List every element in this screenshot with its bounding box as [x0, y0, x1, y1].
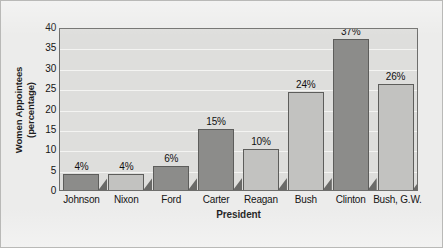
bar-group: 26% — [378, 29, 414, 190]
y-axis-tick-label: 0 — [31, 186, 56, 196]
y-axis-tick-label: 40 — [31, 23, 56, 33]
bar-group: 15% — [198, 29, 234, 190]
plot-area: 4%4%6%15%10%24%37%26% — [59, 28, 418, 191]
y-axis-tick-label: 15 — [31, 125, 56, 135]
x-axis-tick-label: Clinton — [328, 194, 373, 206]
bar[interactable] — [243, 149, 279, 190]
y-axis-tick-label: 35 — [31, 43, 56, 53]
x-axis-tick-labels: JohnsonNixonFordCarterReaganBushClintonB… — [59, 194, 418, 208]
bar[interactable] — [198, 129, 234, 190]
bar-shadow — [323, 178, 332, 190]
bar-series: 4%4%6%15%10%24%37%26% — [60, 29, 417, 190]
chart-figure: Women Appointees (percentage) 0510152025… — [0, 0, 443, 248]
bar-value-label: 26% — [386, 71, 405, 82]
bar[interactable] — [333, 39, 369, 190]
bar-value-label: 6% — [164, 153, 178, 164]
y-axis-title-line1: Women Appointees — [13, 66, 24, 153]
bar-group: 4% — [108, 29, 144, 190]
bar[interactable] — [63, 174, 99, 190]
bar-value-label: 10% — [251, 136, 270, 147]
bar[interactable] — [153, 166, 189, 190]
bar-shadow — [188, 178, 197, 190]
x-axis-tick-label: Reagan — [239, 194, 284, 206]
bar[interactable] — [288, 92, 324, 190]
bar-shadow — [368, 178, 377, 190]
bar-value-label: 24% — [296, 79, 315, 90]
x-axis-tick-label: Nixon — [104, 194, 149, 206]
y-axis-tick-label: 10 — [31, 145, 56, 155]
bar-shadow — [143, 178, 152, 190]
bar-group: 24% — [288, 29, 324, 190]
bar-value-label: 4% — [74, 161, 88, 172]
bar-group: 37% — [333, 29, 369, 190]
y-axis-tick-label: 30 — [31, 64, 56, 74]
x-axis-tick-label: Carter — [194, 194, 239, 206]
y-axis-tick-label: 25 — [31, 84, 56, 94]
bar-group: 4% — [63, 29, 99, 190]
bar-shadow — [233, 178, 242, 190]
bar-value-label: 37% — [341, 28, 360, 37]
bar-shadow — [278, 178, 287, 190]
bar-shadow — [98, 178, 107, 190]
y-axis-tick-labels: 0510152025303540 — [31, 28, 56, 191]
bar[interactable] — [108, 174, 144, 190]
x-axis-tick-label: Johnson — [59, 194, 104, 206]
bar-group: 6% — [153, 29, 189, 190]
bar-group: 10% — [243, 29, 279, 190]
bar-value-label: 4% — [119, 161, 133, 172]
y-axis-tick-label: 20 — [31, 105, 56, 115]
x-axis-title: President — [59, 209, 418, 220]
bar[interactable] — [378, 84, 414, 190]
x-axis-tick-label: Ford — [149, 194, 194, 206]
bar-value-label: 15% — [206, 116, 225, 127]
y-axis-tick-label: 5 — [31, 166, 56, 176]
x-axis-tick-label: Bush, G.W. — [373, 194, 418, 206]
x-axis-tick-label: Bush — [283, 194, 328, 206]
